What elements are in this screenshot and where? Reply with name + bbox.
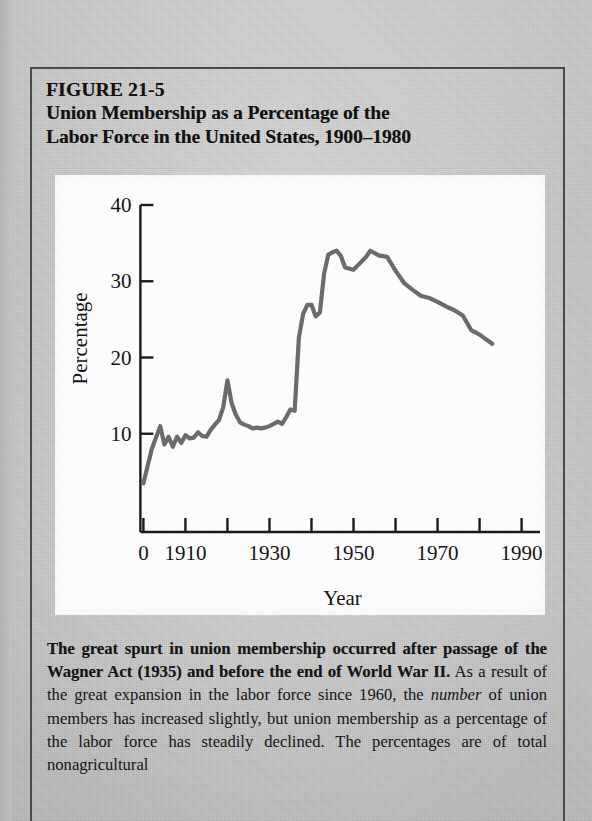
chart-tick-labels: 10203040019101930195019701990	[110, 193, 542, 565]
figure-title-line-1: Union Membership as a Percentage of the	[46, 101, 546, 125]
figure-title-block: FIGURE 21-5 Union Membership as a Percen…	[46, 78, 546, 149]
svg-text:1910: 1910	[164, 541, 206, 565]
chart-panel: 10203040019101930195019701990 Percentage…	[55, 175, 545, 615]
caption-italic-word: number	[431, 685, 482, 704]
svg-text:1990: 1990	[501, 541, 543, 565]
svg-text:40: 40	[110, 193, 131, 217]
scan-left-edge	[0, 0, 12, 821]
svg-text:20: 20	[110, 346, 131, 370]
svg-text:10: 10	[110, 422, 131, 446]
chart-x-axis-label: Year	[323, 586, 362, 610]
figure-title-line-2: Labor Force in the United States, 1900–1…	[46, 125, 546, 149]
figure-caption: The great spurt in union membership occu…	[47, 637, 547, 776]
svg-text:1970: 1970	[417, 541, 459, 565]
chart-y-axis-label: Percentage	[68, 292, 92, 384]
svg-text:0: 0	[138, 541, 149, 565]
svg-text:1930: 1930	[248, 541, 290, 565]
svg-text:30: 30	[110, 269, 131, 293]
svg-text:1950: 1950	[333, 541, 375, 565]
figure-number: FIGURE 21-5	[46, 78, 546, 101]
union-membership-line-chart: 10203040019101930195019701990 Percentage…	[55, 175, 545, 615]
chart-data-line	[143, 251, 492, 484]
